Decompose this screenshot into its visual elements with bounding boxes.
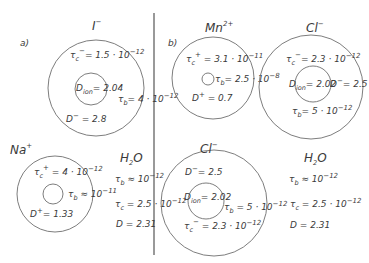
- tau-c-label: τc = 2.5 · 10−12: [115, 197, 187, 212]
- ion-title: Cl−: [200, 141, 218, 156]
- panel-a-label: a): [20, 38, 29, 48]
- ion-title: Mn2+: [205, 20, 233, 35]
- tau-c-label: τc−= 2.3 · 10−12: [286, 51, 361, 67]
- tau-c-label: τc−= 1.5 · 10−12: [70, 47, 145, 63]
- inner-ion-circle: [43, 184, 63, 204]
- ion-iodide: I− τc−= 1.5 · 10−12 Dion= 2.04 τb= 4 · 1…: [48, 18, 179, 136]
- d-label: D−= 2.5: [185, 165, 223, 177]
- d-label: D−= 2.5: [330, 77, 368, 89]
- tau-b-label: τb= 4 · 10−12: [118, 92, 179, 107]
- tau-c-label: τc+ = 4 · 10−12: [34, 164, 103, 180]
- water-panel-b: H2O τb ≈ 10−12 τc = 2.5 · 10−12 D = 2.31: [289, 151, 362, 230]
- panel-b-label: b): [168, 38, 177, 48]
- tau-c-label: τc = 2.5 · 10−12: [290, 197, 362, 212]
- tau-b-label: τb ≈ 10−12: [289, 172, 339, 187]
- ion-manganese: Mn2+ τc+ = 3.1 · 10−11 τb= 2.5 · 10−8 D+…: [172, 20, 280, 119]
- d-label: D = 2.31: [290, 220, 330, 230]
- water-title: H2O: [120, 151, 143, 167]
- hydration-shell-diagram: a) b) I− τc−= 1.5 · 10−12 Dion= 2.04 τb=…: [0, 0, 369, 263]
- inner-ion-circle: [202, 73, 214, 85]
- ion-title: Cl−: [306, 20, 324, 35]
- ion-sodium: Na+ τc+ = 4 · 10−12 τb ≈ 10−11 D+= 1.33: [10, 142, 117, 232]
- d-label: D− = 2.8: [66, 112, 107, 124]
- d-ion-label: Dion= 2.04: [76, 83, 124, 96]
- d-label: D+= 1.33: [30, 207, 74, 219]
- ion-title: Na+: [10, 142, 32, 157]
- tau-c-label: τc− = 2.3 · 10−12: [184, 218, 262, 234]
- water-panel-a: H2O τb ≈ 10−12 τc = 2.5 · 10−12 D = 2.31: [115, 151, 187, 229]
- d-label: D+ = 0.7: [192, 91, 233, 103]
- tau-b-label: τb ≈ 10−12: [115, 172, 165, 187]
- tau-b-label: τb= 2.5 · 10−8: [215, 72, 280, 87]
- d-label: D = 2.31: [116, 219, 156, 229]
- tau-b-label: τb= 5 · 10−12: [292, 104, 353, 119]
- tau-b-label: τb = 5 · 10−12: [224, 200, 288, 215]
- water-title: H2O: [304, 151, 327, 167]
- ion-title: I−: [92, 18, 102, 33]
